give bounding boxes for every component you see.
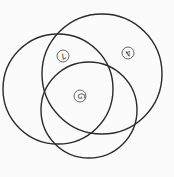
marker-label: 4	[124, 48, 133, 58]
venn-diagram: 7 4 G	[0, 0, 174, 177]
bottom-circle	[41, 62, 137, 158]
marker-label: G	[76, 93, 85, 99]
top-right-circle	[42, 14, 162, 134]
left-circle	[3, 34, 113, 144]
marker-m3: G	[74, 90, 86, 102]
marker-m2: 4	[122, 47, 134, 59]
marker-m1: 7	[57, 50, 69, 62]
marker-label: 7	[59, 51, 68, 61]
